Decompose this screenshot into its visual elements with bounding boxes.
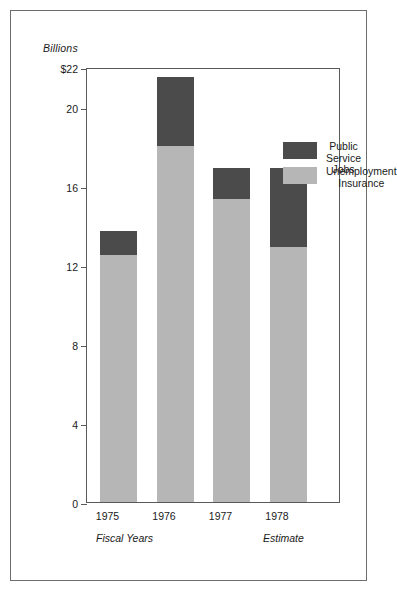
legend-swatch-icon-public-service-jobs [283, 142, 317, 159]
legend-label-unemployment-insurance: Unemployment Insurance [326, 166, 397, 189]
y-axis-tick-label: 20 [66, 103, 78, 114]
bar-segment-unemployment-insurance [157, 146, 194, 502]
y-axis-tick [81, 504, 87, 505]
y-axis-tick [81, 188, 87, 189]
bar-segment-public-service-jobs [213, 168, 250, 200]
y-axis-tick-label: 4 [72, 420, 78, 431]
bar-segment-public-service-jobs [100, 231, 137, 255]
bar-segment-unemployment-insurance [270, 247, 307, 502]
y-axis-tick-label: 8 [72, 341, 78, 352]
footnote-fiscal-years: Fiscal Years [96, 532, 153, 544]
legend-item-unemployment-insurance: Unemployment Insurance [283, 167, 397, 189]
plot-area: 048121620$22 Public Service Jobs Unemplo… [86, 68, 340, 503]
figure-border: Billions 048121620$22 Public Service Job… [10, 10, 367, 581]
bar-1978 [270, 168, 307, 502]
y-axis-tick [81, 346, 87, 347]
y-axis-tick-label: 12 [66, 261, 78, 272]
y-axis-tick-label: $22 [60, 64, 78, 75]
bar-1975 [100, 231, 137, 502]
y-axis-tick [81, 69, 87, 70]
footnote-estimate: Estimate [263, 532, 304, 544]
y-axis-tick [81, 109, 87, 110]
x-axis-tick-label-1978: 1978 [247, 510, 307, 522]
legend-swatch-icon-unemployment-insurance [283, 167, 317, 184]
x-axis-tick-label-1976: 1976 [134, 510, 194, 522]
y-axis-tick-label: 0 [72, 499, 78, 510]
x-axis-tick-label-1975: 1975 [78, 510, 138, 522]
bar-segment-public-service-jobs [157, 77, 194, 146]
bar-1977 [213, 168, 250, 502]
y-axis-tick [81, 425, 87, 426]
y-axis-tick [81, 267, 87, 268]
x-axis-tick-label-1977: 1977 [191, 510, 251, 522]
bar-segment-unemployment-insurance [100, 255, 137, 502]
y-axis-tick-label: 16 [66, 182, 78, 193]
y-axis-unit-label: Billions [43, 42, 78, 54]
bar-segment-unemployment-insurance [213, 199, 250, 502]
bar-1976 [157, 77, 194, 502]
